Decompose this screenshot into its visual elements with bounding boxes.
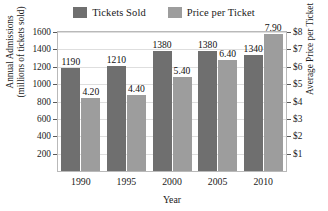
- left-axis-tick: [53, 49, 57, 50]
- bar-tickets-sold[interactable]: [244, 55, 263, 171]
- bar-value-label: 1380: [198, 40, 217, 50]
- right-axis-tick: [287, 84, 291, 85]
- right-axis-title: Average Price per Ticket: [303, 0, 317, 122]
- bar-price-per-ticket[interactable]: [264, 34, 283, 171]
- right-axis-tick: [287, 49, 291, 50]
- legend-label-tickets-sold: Tickets Sold: [92, 7, 146, 18]
- left-axis-title-line2: (millions of tickets sold): [16, 6, 27, 97]
- right-axis-tick: [287, 102, 291, 103]
- bar-value-label: 4.40: [128, 84, 145, 94]
- left-axis-tick: [53, 136, 57, 137]
- right-axis-tick: [287, 32, 291, 33]
- bar-group: 13806.40: [198, 32, 237, 171]
- bar-value-label: 1190: [61, 57, 80, 67]
- x-axis-ticklabel: 2005: [195, 176, 241, 187]
- bar-value-label: 7.90: [265, 23, 282, 33]
- legend-item-tickets-sold: Tickets Sold: [73, 7, 146, 18]
- left-axis-tick: [53, 84, 57, 85]
- left-axis-ticklabel: 1200: [32, 62, 51, 72]
- bars-layer: 11904.2012104.4013805.4013806.4013407.90: [58, 32, 286, 171]
- legend-item-price-per-ticket: Price per Ticket: [168, 7, 255, 18]
- bar-tickets-sold[interactable]: [107, 66, 126, 171]
- left-axis-title-line1: Annual Admissions: [5, 15, 16, 88]
- bar-price-per-ticket[interactable]: [81, 98, 100, 171]
- legend-label-price-per-ticket: Price per Ticket: [187, 7, 255, 18]
- bar-price-per-ticket[interactable]: [173, 77, 192, 171]
- chart-legend: Tickets Sold Price per Ticket: [0, 2, 328, 22]
- right-axis-ticklabel: $5: [293, 79, 302, 89]
- bar-tickets-sold[interactable]: [198, 51, 217, 171]
- right-axis-ticklabel: $8: [293, 27, 302, 37]
- legend-swatch-icon-tickets-sold: [73, 7, 87, 18]
- x-axis-ticklabel: 2000: [149, 176, 195, 187]
- right-axis-tick: [287, 67, 291, 68]
- right-axis-ticklabel: $4: [293, 97, 302, 107]
- bar-tickets-sold[interactable]: [61, 68, 80, 171]
- right-axis-tick: [287, 119, 291, 120]
- bar-tickets-sold[interactable]: [153, 51, 172, 171]
- left-axis-ticklabel: 1600: [32, 27, 51, 37]
- left-axis-ticklabel: 1000: [32, 79, 51, 89]
- x-axis-ticklabel: 2010: [240, 176, 286, 187]
- bar-value-label: 1210: [107, 55, 126, 65]
- left-axis-ticklabel: 600: [37, 114, 51, 124]
- bar-price-per-ticket[interactable]: [218, 60, 237, 171]
- bar-value-label: 5.40: [174, 66, 191, 76]
- x-axis-title: Year: [56, 194, 288, 205]
- left-axis-ticklabel: 1400: [32, 44, 51, 54]
- bar-value-label: 1380: [152, 40, 171, 50]
- x-axis-ticklabel: 1990: [58, 176, 104, 187]
- chart-container: Tickets Sold Price per Ticket Annual Adm…: [0, 0, 328, 211]
- bar-group: 13805.40: [153, 32, 192, 171]
- right-axis-ticklabel: $6: [293, 62, 302, 72]
- bar-group: 12104.40: [107, 32, 146, 171]
- left-axis-tick: [53, 119, 57, 120]
- left-axis-tick: [53, 154, 57, 155]
- bar-value-label: 4.20: [82, 87, 99, 97]
- left-axis-ticklabel: 200: [37, 149, 51, 159]
- bar-value-label: 6.40: [219, 49, 236, 59]
- bar-group: 11904.20: [61, 32, 100, 171]
- bar-price-per-ticket[interactable]: [127, 95, 146, 171]
- left-axis-tick: [53, 102, 57, 103]
- legend-swatch-icon-price-per-ticket: [168, 7, 182, 18]
- left-axis-tick: [53, 67, 57, 68]
- bar-value-label: 1340: [244, 44, 263, 54]
- right-axis-tick: [287, 154, 291, 155]
- left-axis-tick: [53, 32, 57, 33]
- left-axis-ticklabel: 400: [37, 131, 51, 141]
- right-axis-ticklabel: $2: [293, 131, 302, 141]
- x-axis-ticklabel: 1995: [104, 176, 150, 187]
- right-axis-ticklabel: $3: [293, 114, 302, 124]
- right-axis-tick: [287, 136, 291, 137]
- right-axis-ticklabel: $1: [293, 149, 302, 159]
- left-axis-title: Annual Admissions (millions of tickets s…: [4, 0, 28, 125]
- left-axis-ticklabel: 800: [37, 97, 51, 107]
- right-axis-ticklabel: $7: [293, 44, 302, 54]
- bar-group: 13407.90: [244, 32, 283, 171]
